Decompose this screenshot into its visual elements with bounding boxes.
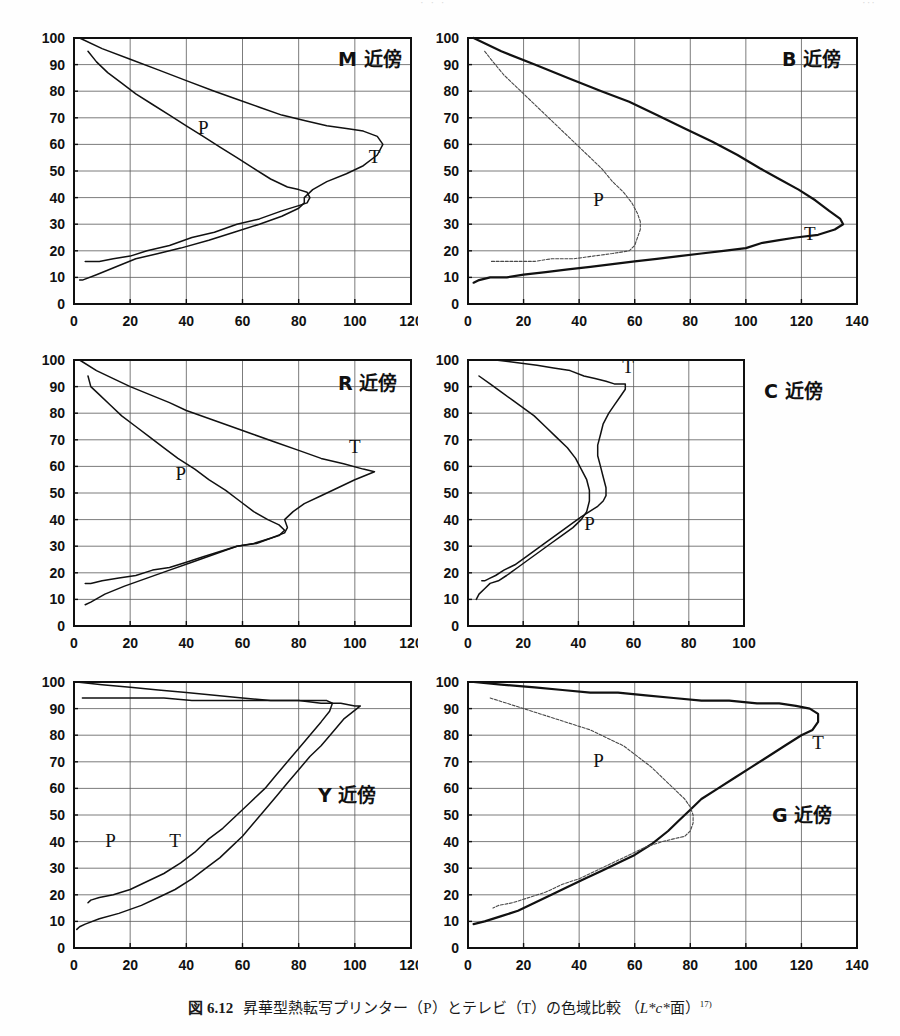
chart-title-c: C 近傍 xyxy=(764,380,823,402)
y-tick-label: 10 xyxy=(49,591,65,607)
y-tick-label: 40 xyxy=(49,512,65,528)
y-tick-label: 90 xyxy=(49,379,65,395)
x-tick-label: 100 xyxy=(734,957,758,970)
y-tick-label: 30 xyxy=(443,538,459,554)
x-tick-label: 20 xyxy=(516,957,532,970)
running-header: · · · ··· xyxy=(0,0,900,8)
y-tick-label: 10 xyxy=(443,591,459,607)
x-tick-label: 100 xyxy=(734,313,758,326)
y-tick-label: 50 xyxy=(49,485,65,501)
x-tick-label: 100 xyxy=(732,635,756,648)
caption-text-after: 面） xyxy=(670,1000,700,1016)
y-tick-label: 0 xyxy=(57,618,65,634)
chart-y-vicinity: 0102030405060708090100020406080100120PTY… xyxy=(18,670,418,970)
y-tick-label: 80 xyxy=(49,83,65,99)
x-tick-label: 100 xyxy=(343,957,367,970)
y-tick-label: 70 xyxy=(443,110,459,126)
y-tick-label: 20 xyxy=(49,565,65,581)
series-label-T: T xyxy=(369,146,381,167)
y-tick-label: 100 xyxy=(42,30,66,46)
y-tick-label: 60 xyxy=(443,780,459,796)
series-label-T: T xyxy=(622,356,634,377)
running-header-center: · · · xyxy=(420,0,447,8)
y-tick-label: 0 xyxy=(57,296,65,312)
y-tick-label: 70 xyxy=(49,432,65,448)
x-tick-label: 60 xyxy=(235,957,251,970)
x-tick-label: 40 xyxy=(571,957,587,970)
x-tick-label: 60 xyxy=(627,313,643,326)
y-tick-label: 10 xyxy=(49,913,65,929)
chart-svg-r: 0102030405060708090100020406080100120PTR… xyxy=(18,348,418,648)
x-tick-label: 40 xyxy=(571,635,587,648)
chart-title-g: G 近傍 xyxy=(772,804,832,826)
y-tick-label: 60 xyxy=(443,136,459,152)
chart-b-vicinity: 0102030405060708090100020406080100120140… xyxy=(412,26,872,326)
y-tick-label: 10 xyxy=(443,269,459,285)
series-label-P: P xyxy=(593,750,604,771)
chart-title-b: B 近傍 xyxy=(782,48,841,70)
y-tick-label: 50 xyxy=(49,163,65,179)
x-tick-label: 40 xyxy=(179,635,195,648)
y-tick-label: 30 xyxy=(443,860,459,876)
chart-c-vicinity: 0102030405060708090100020406080100PTC 近傍 xyxy=(412,348,882,648)
x-tick-label: 140 xyxy=(845,957,869,970)
y-tick-label: 90 xyxy=(49,701,65,717)
x-tick-label: 0 xyxy=(464,635,472,648)
chart-title-r: R 近傍 xyxy=(338,372,397,394)
chart-r-vicinity: 0102030405060708090100020406080100120PTR… xyxy=(18,348,418,648)
y-tick-label: 0 xyxy=(57,940,65,956)
x-tick-label: 120 xyxy=(790,313,814,326)
y-tick-label: 10 xyxy=(443,913,459,929)
x-tick-label: 140 xyxy=(845,313,869,326)
y-tick-label: 0 xyxy=(451,940,459,956)
chart-m-vicinity: 0102030405060708090100020406080100120PTM… xyxy=(18,26,418,326)
y-tick-label: 100 xyxy=(42,352,66,368)
series-label-T: T xyxy=(349,436,361,457)
y-tick-label: 100 xyxy=(436,30,460,46)
running-header-right: ··· xyxy=(862,0,876,8)
x-tick-label: 20 xyxy=(122,313,138,326)
x-tick-label: 60 xyxy=(627,957,643,970)
y-tick-label: 30 xyxy=(443,216,459,232)
x-tick-label: 120 xyxy=(790,957,814,970)
x-tick-label: 80 xyxy=(291,313,307,326)
chart-svg-g: 0102030405060708090100020406080100120140… xyxy=(412,670,882,970)
y-tick-label: 50 xyxy=(49,807,65,823)
series-label-T: T xyxy=(804,223,816,244)
chart-title-y: Y 近傍 xyxy=(317,784,376,806)
y-tick-label: 40 xyxy=(49,190,65,206)
x-tick-label: 0 xyxy=(70,313,78,326)
y-tick-label: 80 xyxy=(443,727,459,743)
series-label-T: T xyxy=(169,830,181,851)
y-tick-label: 90 xyxy=(443,701,459,717)
caption-reference: 17) xyxy=(700,999,712,1009)
y-tick-label: 10 xyxy=(49,269,65,285)
x-tick-label: 0 xyxy=(464,957,472,970)
x-tick-label: 20 xyxy=(122,957,138,970)
x-tick-label: 60 xyxy=(235,635,251,648)
series-label-P: P xyxy=(198,117,209,138)
document-page: · · · ··· 010203040506070809010002040608… xyxy=(0,0,900,1036)
chart-svg-b: 0102030405060708090100020406080100120140… xyxy=(412,26,872,326)
x-tick-label: 20 xyxy=(516,313,532,326)
y-tick-label: 80 xyxy=(49,727,65,743)
chart-svg-m: 0102030405060708090100020406080100120PTM… xyxy=(18,26,418,326)
y-tick-label: 90 xyxy=(443,57,459,73)
y-tick-label: 80 xyxy=(443,405,459,421)
x-tick-label: 0 xyxy=(464,313,472,326)
y-tick-label: 60 xyxy=(49,136,65,152)
y-tick-label: 70 xyxy=(443,754,459,770)
x-tick-label: 40 xyxy=(179,957,195,970)
y-tick-label: 20 xyxy=(443,887,459,903)
x-tick-label: 40 xyxy=(179,313,195,326)
y-tick-label: 50 xyxy=(443,163,459,179)
series-label-P: P xyxy=(593,189,604,210)
x-tick-label: 60 xyxy=(235,313,251,326)
series-label-P: P xyxy=(105,830,116,851)
x-tick-label: 100 xyxy=(343,313,367,326)
y-tick-label: 20 xyxy=(443,565,459,581)
y-tick-label: 100 xyxy=(42,674,66,690)
x-tick-label: 100 xyxy=(343,635,367,648)
figure-caption: 図 6.12昇華型熱転写プリンター（P）とテレビ（T）の色域比較 （L*c*面）… xyxy=(0,996,900,1017)
y-tick-label: 100 xyxy=(436,674,460,690)
